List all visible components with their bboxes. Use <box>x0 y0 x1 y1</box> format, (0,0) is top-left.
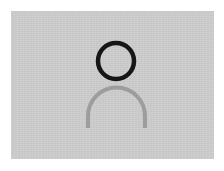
avatar-head-circle <box>98 43 134 79</box>
screenshot-stage: User avatar placeholder <box>0 0 224 171</box>
user-avatar-placeholder-icon <box>0 0 224 171</box>
avatar-shoulders-arc <box>88 88 145 128</box>
